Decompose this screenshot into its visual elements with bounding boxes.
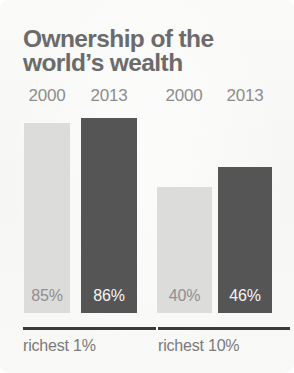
bar-value-richest1-2000: 85%: [24, 287, 70, 305]
year-label-group1-2000: 2000: [20, 86, 74, 106]
year-label-group2-2013: 2013: [218, 86, 272, 106]
group-rule-richest10: [158, 327, 290, 330]
chart-title: Ownership of the world’s wealth: [23, 27, 263, 75]
group-rule-richest1: [23, 327, 156, 330]
bar-richest1-2000: 85%: [24, 123, 70, 313]
bar-value-richest10-2013: 46%: [218, 287, 272, 305]
bar-richest10-2000: 40%: [157, 187, 212, 313]
year-label-group1-2013: 2013: [82, 86, 136, 106]
bar-richest1-2013: 86%: [81, 118, 137, 313]
group-label-richest1: richest 1%: [23, 337, 96, 355]
year-label-group2-2000: 2000: [157, 86, 211, 106]
wealth-ownership-infographic: Ownership of the world’s wealth 2000 201…: [0, 0, 294, 373]
bar-value-richest1-2013: 86%: [81, 287, 137, 305]
group-label-richest10: richest 10%: [158, 337, 239, 355]
bar-richest10-2013: 46%: [218, 167, 272, 313]
bar-value-richest10-2000: 40%: [157, 287, 212, 305]
